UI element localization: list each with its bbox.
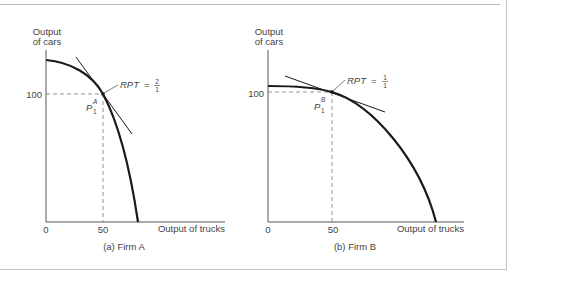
origin-label: 0 xyxy=(43,224,48,235)
y-axis-label-line2: of cars xyxy=(255,36,284,47)
x-tick-label-50: 50 xyxy=(328,224,339,235)
rpt-numerator: 2 xyxy=(155,78,159,85)
point-label: P xyxy=(314,101,321,112)
origin-label: 0 xyxy=(265,224,270,235)
panel-firm-a: Output of cars 100 0 50 Output of trucks… xyxy=(26,26,225,252)
rpt-equals: = xyxy=(371,75,377,86)
point-superscript: A xyxy=(92,98,97,105)
y-axis-label-line2: of cars xyxy=(33,36,62,47)
x-axis-label: Output of trucks xyxy=(158,223,225,234)
point-label: P xyxy=(86,102,93,113)
y-tick-label-100: 100 xyxy=(26,89,42,100)
rpt-leader-line xyxy=(333,80,345,91)
x-tick-label-50: 50 xyxy=(98,224,109,235)
rpt-denominator: 1 xyxy=(383,82,387,89)
rpt-equals: = xyxy=(144,79,150,90)
panel-caption: (a) Firm A xyxy=(103,241,145,252)
x-axis-label: Output of trucks xyxy=(397,223,464,234)
rpt-denominator: 1 xyxy=(155,86,159,93)
rpt-label: RPT xyxy=(120,79,140,90)
production-possibility-curve xyxy=(268,86,436,222)
ppf-figure: Output of cars 100 0 50 Output of trucks… xyxy=(0,0,561,281)
y-tick-label-100: 100 xyxy=(248,88,264,99)
point-superscript: B xyxy=(321,96,326,103)
tangent-line xyxy=(76,57,132,134)
point-subscript: 1 xyxy=(93,108,97,115)
rpt-numerator: 1 xyxy=(383,74,387,81)
tangent-line xyxy=(285,76,385,112)
panel-firm-b: Output of cars 100 0 50 Output of trucks… xyxy=(248,26,464,252)
point-subscript: 1 xyxy=(321,107,325,114)
rpt-label: RPT xyxy=(347,75,367,86)
rpt-leader-line xyxy=(104,85,118,93)
panel-caption: (b) Firm B xyxy=(334,241,376,252)
